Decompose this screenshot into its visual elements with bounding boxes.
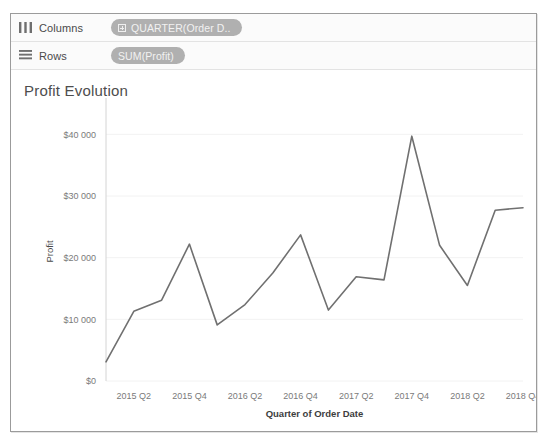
- y-axis-title: Profit: [44, 240, 55, 263]
- gridlines: [106, 134, 523, 381]
- y-axis-tick-label: $30 000: [63, 191, 96, 201]
- pill-sum-profit-label: SUM(Profit): [118, 50, 174, 62]
- x-axis-tick-label: 2017 Q2: [339, 391, 374, 401]
- pill-quarter-order-date-label: QUARTER(Order D..: [131, 22, 231, 34]
- x-axis-tick-label: 2018 Q2: [450, 391, 485, 401]
- x-axis-tick-labels: 2015 Q22015 Q42016 Q22016 Q42017 Q22017 …: [117, 391, 536, 401]
- y-axis-tick-label: $40 000: [63, 130, 96, 140]
- chart-view: Profit Evolution $0$10 000$20 000$30 000…: [11, 70, 536, 431]
- y-axis-tick-label: $0: [86, 376, 96, 386]
- x-axis-tick-label: 2016 Q4: [283, 391, 318, 401]
- line-chart: $0$10 000$20 000$30 000$40 000 2015 Q220…: [11, 70, 536, 431]
- plot-area: $0$10 000$20 000$30 000$40 000 2015 Q220…: [11, 70, 536, 431]
- x-axis-title: Quarter of Order Date: [266, 408, 364, 419]
- worksheet-frame: Columns QUARTER(Order D.. Rows SUM(Profi…: [10, 13, 537, 432]
- x-axis-tick-label: 2015 Q2: [117, 391, 152, 401]
- columns-icon: [19, 22, 32, 33]
- plus-box-icon[interactable]: [118, 24, 126, 32]
- y-axis-tick-label: $10 000: [63, 315, 96, 325]
- rows-shelf-label: Rows: [39, 50, 67, 62]
- pill-quarter-order-date[interactable]: QUARTER(Order D..: [111, 19, 242, 36]
- x-axis-tick-label: 2016 Q2: [228, 391, 263, 401]
- rows-shelf[interactable]: Rows SUM(Profit): [11, 42, 536, 70]
- pill-sum-profit[interactable]: SUM(Profit): [111, 47, 185, 64]
- columns-shelf-label-group: Columns: [11, 22, 111, 34]
- profit-line-series[interactable]: [106, 136, 523, 362]
- x-axis-tick-label: 2018 Q4: [506, 391, 536, 401]
- columns-shelf[interactable]: Columns QUARTER(Order D..: [11, 14, 536, 42]
- columns-shelf-label: Columns: [39, 22, 83, 34]
- x-axis-tick-label: 2017 Q4: [395, 391, 430, 401]
- y-axis-tick-label: $20 000: [63, 253, 96, 263]
- x-axis-tick-label: 2015 Q4: [172, 391, 207, 401]
- rows-icon: [19, 50, 32, 61]
- rows-shelf-label-group: Rows: [11, 50, 111, 62]
- y-axis-tick-labels: $0$10 000$20 000$30 000$40 000: [63, 130, 96, 387]
